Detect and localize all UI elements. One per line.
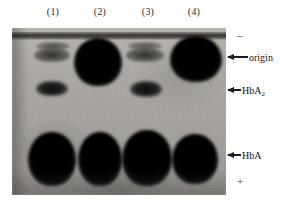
annotation-origin: origin — [228, 51, 273, 63]
arrow-left-icon-hba2 — [228, 89, 241, 91]
polarity-negative: – — [237, 30, 243, 41]
gel-bottom-shading — [12, 169, 226, 195]
electrophoresis-figure: (1) (2) (3) (4) – + origin HbA2 — [0, 0, 283, 207]
band-lane3-hba2 — [130, 81, 162, 97]
annotation-label-hba: HbA — [242, 150, 261, 161]
annotation-hba2: HbA2 — [228, 84, 265, 96]
arrow-left-icon-origin — [228, 56, 248, 58]
lane-label-4: (4) — [183, 6, 205, 17]
annotation-hba: HbA — [228, 149, 261, 161]
lane-label-1: (1) — [42, 6, 64, 17]
gel-image — [12, 28, 226, 195]
band-lane3-origin — [126, 48, 164, 62]
annotation-label-hba2-text: HbA — [242, 85, 261, 96]
lane-label-3: (3) — [137, 6, 159, 17]
band-lane3-origin-upper — [128, 42, 162, 50]
lane-label-2: (2) — [89, 6, 111, 17]
band-lane1-origin-upper — [36, 42, 70, 50]
annotation-label-hba2-subscript: 2 — [261, 90, 265, 98]
band-lane1-hba2 — [36, 81, 68, 96]
polarity-positive: + — [237, 176, 243, 187]
band-lane4-origin — [170, 36, 222, 82]
annotation-label-origin: origin — [249, 52, 273, 63]
band-lane2-origin — [74, 38, 122, 86]
band-lane1-origin — [34, 48, 70, 62]
arrow-left-icon-hba — [228, 154, 241, 156]
annotation-label-hba2: HbA2 — [242, 85, 265, 96]
